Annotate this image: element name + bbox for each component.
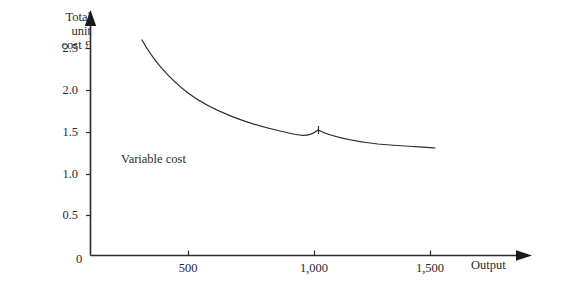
y-tick-label-1-0: 1.0 [44,167,78,181]
origin-label: 0 [69,252,89,266]
variable-cost-label: Variable cost [121,152,186,166]
x-tick-label-500: 500 [158,261,218,275]
x-tick-label-1500: 1,500 [400,261,460,275]
x-axis-arrow-icon [516,250,532,261]
x-axis-title: Output [471,258,506,272]
variable-cost-curve [142,40,435,148]
y-tick-label-2-5: 2.5 [44,41,78,55]
x-tick-label-1000: 1,000 [284,261,344,275]
variable-cost-chart: Totalunitcost £ 2.5 2.0 1.5 1.0 0.5 0 50… [0,0,566,293]
y-axis-title-line-1: Total [65,10,91,24]
y-tick-label-2-0: 2.0 [44,83,78,97]
y-tick-label-1-5: 1.5 [44,125,78,139]
y-axis-title-line-2: unit [72,24,91,38]
y-tick-label-0-5: 0.5 [44,208,78,222]
